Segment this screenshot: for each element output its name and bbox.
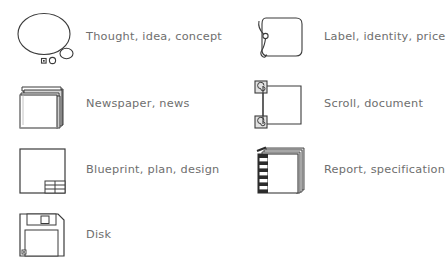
legend-entry-label: Disk: [86, 228, 111, 242]
tag-label-icon: [252, 8, 314, 66]
legend-entry-blueprint: Blueprint, plan, design: [14, 141, 220, 199]
legend-entry-label: Label, identity, price: [324, 30, 446, 44]
legend-entry-newspaper: Newspaper, news: [14, 75, 190, 133]
legend-entry-label: Newspaper, news: [86, 97, 190, 111]
legend-entry-label: Blueprint, plan, design: [86, 163, 220, 177]
scroll-icon: [252, 75, 314, 133]
legend-entry-label: Thought, idea, concept: [86, 30, 222, 44]
legend-entry-label: Report, specification: [324, 163, 445, 177]
newspaper-stack-icon: [14, 75, 76, 133]
blueprint-icon: [14, 141, 76, 199]
floppy-disk-icon: [14, 206, 76, 264]
icon-legend: Thought, idea, concept Label, identity, …: [0, 0, 447, 272]
legend-entry-report: Report, specification: [252, 141, 445, 199]
legend-entry-thought: Thought, idea, concept: [14, 8, 222, 66]
thought-bubble-icon: [14, 8, 76, 66]
legend-entry-scroll: Scroll, document: [252, 75, 423, 133]
legend-entry-label-tag: Label, identity, price: [252, 8, 446, 66]
legend-entry-disk: Disk: [14, 206, 111, 264]
spiral-notebook-icon: [252, 141, 314, 199]
legend-entry-label: Scroll, document: [324, 97, 423, 111]
